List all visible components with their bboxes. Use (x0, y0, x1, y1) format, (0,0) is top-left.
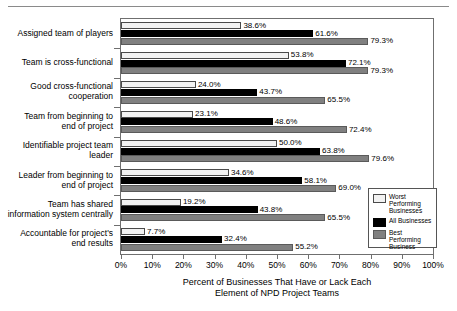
bar-value-label: 50.0% (277, 139, 302, 147)
bar-best (121, 97, 325, 104)
x-axis-tick-label: 80% (362, 260, 379, 270)
bar-value-label: 58.1% (302, 177, 327, 185)
bar-best (121, 126, 347, 133)
x-axis-tick-label: 100% (422, 260, 444, 270)
bar-value-label: 48.6% (273, 118, 298, 126)
x-axis-tick (339, 255, 340, 259)
bar-value-label: 34.6% (229, 169, 254, 177)
y-axis-label: Team from beginning toend of project (0, 111, 113, 131)
legend-swatch-all (373, 218, 386, 227)
bar-row: 79.6% (121, 155, 433, 162)
x-axis-tick-label: 50% (268, 260, 285, 270)
x-axis-tick-label: 10% (144, 260, 161, 270)
y-axis-category-labels: Assigned team of playersTeam is cross-fu… (0, 18, 117, 255)
x-axis-tick (152, 255, 153, 259)
bar-worst (121, 22, 241, 29)
chart-legend: Worst Performing BusinessesAll Businesse… (368, 188, 437, 248)
bar-best (121, 244, 293, 251)
bar-value-label: 7.7% (145, 228, 165, 236)
bar-row: 53.8% (121, 52, 433, 59)
bar-value-label: 65.5% (325, 96, 350, 104)
bar-group: 23.1%48.6%72.4% (121, 107, 433, 136)
bar-value-label: 72.1% (346, 59, 371, 67)
legend-swatch-best (373, 230, 386, 239)
x-axis-tick (121, 255, 122, 259)
bar-group: 53.8%72.1%79.3% (121, 48, 433, 77)
bar-value-label: 79.6% (369, 155, 394, 163)
bar-all (121, 118, 273, 125)
bar-value-label: 63.8% (320, 147, 345, 155)
top-divider-rule (8, 6, 449, 7)
bar-best (121, 67, 368, 74)
y-axis-tick (114, 225, 120, 226)
bar-row: 65.5% (121, 97, 433, 104)
legend-swatch-worst (373, 194, 386, 203)
y-axis-tick (114, 166, 120, 167)
y-axis-tick (114, 48, 120, 49)
x-axis-title: Percent of Businesses That Have or Lack … (120, 277, 434, 299)
bar-all (121, 177, 302, 184)
y-axis-label: Assigned team of players (0, 28, 113, 38)
x-axis-tick (277, 255, 278, 259)
x-axis-tick (246, 255, 247, 259)
bar-value-label: 38.6% (241, 22, 266, 30)
bar-worst (121, 81, 196, 88)
legend-entry: Worst Performing Businesses (373, 193, 433, 215)
legend-label: Worst Performing Businesses (389, 193, 422, 215)
y-axis-label: Good cross-functionalcooperation (0, 81, 113, 101)
bar-worst (121, 111, 193, 118)
bar-value-label: 69.0% (336, 184, 361, 192)
bar-best (121, 38, 368, 45)
x-axis-tick-label: 60% (300, 260, 317, 270)
legend-entry: All Businesses (373, 217, 433, 227)
bar-row: 79.3% (121, 67, 433, 74)
bar-row: 43.7% (121, 89, 433, 96)
bar-value-label: 79.3% (368, 37, 393, 45)
bar-value-label: 53.8% (289, 51, 314, 59)
x-axis-tick-label: 70% (331, 260, 348, 270)
x-axis-tick-label: 90% (393, 260, 410, 270)
bar-value-label: 43.8% (258, 206, 283, 214)
legend-entry: Best Performing Business (373, 229, 433, 251)
x-axis-tick (183, 255, 184, 259)
bar-worst (121, 140, 277, 147)
x-axis-tick-label: 30% (206, 260, 223, 270)
x-axis-tick (215, 255, 216, 259)
y-axis-tick (114, 137, 120, 138)
bar-best (121, 185, 336, 192)
bar-value-label: 61.6% (313, 30, 338, 38)
bar-row: 72.4% (121, 126, 433, 133)
bar-group: 38.6%61.6%79.3% (121, 19, 433, 48)
y-axis-label: Team is cross-functional (0, 57, 113, 67)
bar-row: 50.0% (121, 140, 433, 147)
bar-all (121, 148, 320, 155)
y-axis-label: Leader from beginning toend of project (0, 170, 113, 190)
bar-row: 48.6% (121, 118, 433, 125)
x-axis-tick-label: 20% (175, 260, 192, 270)
x-axis-tick-label: 0% (115, 260, 127, 270)
y-axis-tick (114, 107, 120, 108)
bar-value-label: 43.7% (257, 88, 282, 96)
y-axis-label: Accountable for project'send results (0, 228, 113, 248)
x-axis-tick (371, 255, 372, 259)
bar-value-label: 19.2% (181, 198, 206, 206)
bar-value-label: 23.1% (193, 110, 218, 118)
bar-row: 34.6% (121, 169, 433, 176)
bar-worst (121, 169, 229, 176)
x-axis-tick (402, 255, 403, 259)
bar-worst (121, 228, 145, 235)
bar-row: 38.6% (121, 22, 433, 29)
x-axis-tick-label: 40% (237, 260, 254, 270)
bar-value-label: 65.5% (325, 214, 350, 222)
bar-all (121, 206, 258, 213)
bar-best (121, 214, 325, 221)
bar-best (121, 155, 369, 162)
y-axis-label: Team has sharedinformation system centra… (0, 199, 113, 219)
bar-all (121, 236, 222, 243)
x-axis-tick (308, 255, 309, 259)
bar-value-label: 55.2% (293, 243, 318, 251)
bar-value-label: 32.4% (222, 235, 247, 243)
chart-figure: Assigned team of playersTeam is cross-fu… (0, 0, 457, 311)
bar-value-label: 79.3% (368, 67, 393, 75)
bar-row: 79.3% (121, 38, 433, 45)
